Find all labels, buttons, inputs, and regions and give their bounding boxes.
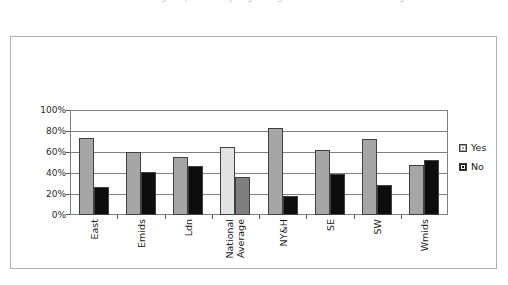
y-axis: 100% 80% 60% 40% 20% 0% — [19, 110, 66, 215]
x-label-cell: Emids — [117, 219, 164, 285]
bar-group-emids — [117, 110, 164, 215]
y-tick-label: 60% — [22, 148, 66, 157]
y-tick-label: 80% — [22, 127, 66, 136]
chart-screenshot: Chart showing responses by region agains… — [0, 0, 508, 285]
bar-emids-yes[interactable] — [126, 152, 141, 215]
x-tick-label-nyh: NY&H — [277, 219, 288, 246]
bar-nyh-yes[interactable] — [268, 128, 283, 215]
bar-group-se — [306, 110, 353, 215]
legend-swatch-no-icon — [459, 163, 467, 171]
bar-group-east — [70, 110, 117, 215]
bar-group-nyh — [259, 110, 306, 215]
x-label-cell: East — [70, 219, 117, 285]
legend-item-yes[interactable]: Yes — [459, 140, 505, 155]
bar-se-no[interactable] — [330, 174, 345, 215]
bar-sw-no[interactable] — [377, 185, 392, 215]
bar-group-national-average — [212, 110, 259, 215]
plot-area — [70, 110, 448, 215]
x-tick-label-emids: Emids — [135, 219, 146, 248]
legend-item-no[interactable]: No — [459, 159, 505, 174]
y-tick-label: 40% — [22, 169, 66, 178]
x-axis-labels: East Emids Ldn NationalAverage NY&H SE S… — [70, 219, 448, 285]
bar-groups — [70, 110, 448, 215]
bar-wmids-no[interactable] — [424, 160, 439, 215]
bar-wmids-yes[interactable] — [409, 165, 424, 215]
chart-legend: Yes No — [459, 140, 505, 178]
y-tick-label: 20% — [22, 190, 66, 199]
x-tick-label-wmids: Wmids — [419, 219, 430, 251]
x-label-cell: Wmids — [401, 219, 448, 285]
bar-group-wmids — [401, 110, 448, 215]
legend-swatch-yes-icon — [459, 144, 467, 152]
x-tick-label-sw: SW — [372, 219, 383, 234]
y-tick-label: 100% — [22, 106, 66, 115]
bar-emids-no[interactable] — [141, 172, 156, 215]
bar-group-sw — [354, 110, 401, 215]
bar-nyh-no[interactable] — [283, 196, 298, 215]
chart-title-clipped: Chart showing responses by region agains… — [0, 0, 508, 3]
x-tick-label-ldn: Ldn — [183, 219, 194, 236]
x-label-cell: NY&H — [259, 219, 306, 285]
chart-frame: 100% 80% 60% 40% 20% 0% — [10, 36, 497, 269]
x-tick-label-se: SE — [324, 219, 335, 231]
bar-ldn-no[interactable] — [188, 166, 203, 215]
bar-east-yes[interactable] — [79, 138, 94, 215]
x-tick-label-national-average: NationalAverage — [224, 219, 246, 283]
x-tick-label-east: East — [88, 219, 99, 240]
x-tick-label-line-2: Average — [235, 219, 246, 283]
bar-group-ldn — [165, 110, 212, 215]
bar-national-average-yes[interactable] — [220, 147, 235, 215]
bar-se-yes[interactable] — [315, 150, 330, 215]
legend-label-yes: Yes — [471, 143, 486, 153]
bar-east-no[interactable] — [94, 187, 109, 215]
legend-label-no: No — [471, 162, 484, 172]
x-label-cell: SE — [306, 219, 353, 285]
x-label-cell: NationalAverage — [212, 219, 259, 285]
x-label-cell: SW — [354, 219, 401, 285]
bar-sw-yes[interactable] — [362, 139, 377, 215]
bar-ldn-yes[interactable] — [173, 157, 188, 215]
bar-national-average-no[interactable] — [235, 177, 250, 215]
y-tick-label: 0% — [22, 211, 66, 220]
x-label-cell: Ldn — [165, 219, 212, 285]
x-tick-label-line-1: National — [224, 219, 235, 283]
